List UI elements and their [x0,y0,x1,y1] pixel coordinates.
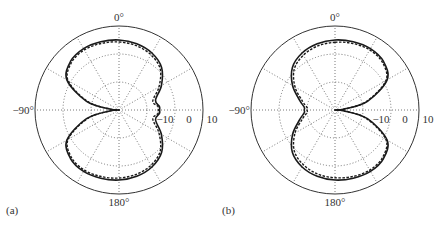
radial-tick-label-a-0: −10 [156,113,174,125]
panel-label-b: (b) [222,204,235,217]
grid-spoke [46,110,119,152]
radial-tick-label-b-2: 10 [423,113,435,125]
angle-label-top-b: 0° [330,11,340,23]
grid-spoke [262,110,335,152]
grid-spoke [119,37,161,110]
polar-figure: 0° 180° −90° −10 0 10 (a) 0° 180° −90° −… [0,0,444,227]
angle-label-top-a: 0° [114,11,124,23]
panel-label-a: (a) [6,204,19,217]
pattern-curves-b [291,40,388,180]
grid-spoke [335,110,408,152]
radial-tick-label-a-2: 10 [207,113,219,125]
angle-label-bottom-b: 180° [325,196,346,208]
radial-tick-label-a-1: 0 [186,113,192,125]
pattern-curves-a [66,40,163,180]
grid-spoke [262,68,335,110]
grid-spoke [335,68,408,110]
angle-label-bottom-a: 180° [109,196,130,208]
grid-spoke [119,110,192,152]
grid-spoke [119,68,192,110]
grid-spoke [119,110,161,183]
grid-spoke [46,68,119,110]
polar-plot-b: 0° 180° −90° −10 0 10 (b) [222,11,434,217]
radial-tick-label-b-0: −10 [372,113,390,125]
radial-tick-label-b-1: 0 [402,113,408,125]
angle-label-left-a: −90° [12,104,34,116]
angle-label-left-b: −90° [228,104,250,116]
polar-plot-a: 0° 180° −90° −10 0 10 (a) [6,11,218,217]
